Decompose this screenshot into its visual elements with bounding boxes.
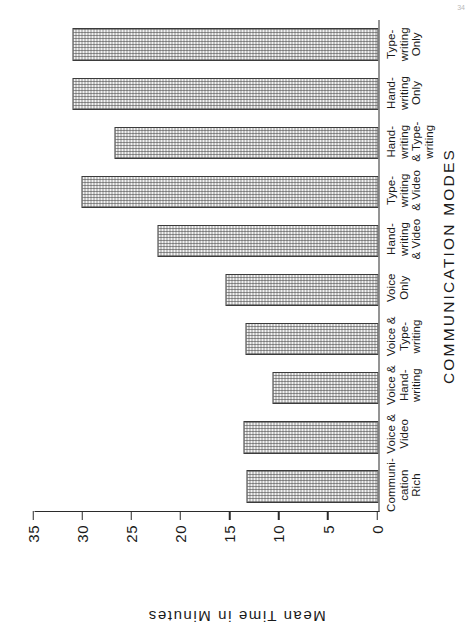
y-axis-tick-mark <box>327 511 329 520</box>
x-axis-category-label-line: Communi- <box>384 458 397 512</box>
x-axis-title: COMMUNICATION MODES <box>439 20 457 512</box>
x-axis-category-label: Communi-cationRich <box>379 458 439 512</box>
x-axis-category-label-line: writing <box>397 215 410 264</box>
bar[interactable] <box>157 225 378 257</box>
x-axis-category-label-line: cation <box>397 458 410 512</box>
x-axis-category-label-line: Type- <box>384 20 397 69</box>
x-axis-category-label-line: Rich <box>409 458 422 512</box>
x-axis-category-label: Hand-writingOnly <box>379 69 439 118</box>
x-axis-category-label: Voice &Video <box>379 409 439 458</box>
x-axis-category-label: Voice &Hand-writing <box>379 361 439 410</box>
bar[interactable] <box>246 470 378 502</box>
bar-slot <box>34 462 378 511</box>
y-axis-title: Mean Time in Minutes <box>146 608 325 625</box>
bar-slot <box>34 266 378 315</box>
x-axis-category-labels: Communi-cationRichVoice &VideoVoice &Han… <box>379 20 439 512</box>
y-axis-tick-mark <box>376 511 378 520</box>
x-axis-category-label: VoiceOnly <box>379 263 439 312</box>
y-axis-tick-label: 35 <box>24 525 41 543</box>
bar[interactable] <box>114 127 378 159</box>
y-axis-tick-mark <box>228 511 230 520</box>
x-axis-category-label-line: Hand- <box>384 69 397 118</box>
x-axis-category-label-line: & Video <box>409 215 422 264</box>
x-axis-category-label: Type-writing& Video <box>379 166 439 215</box>
y-axis-tick-mark <box>179 511 181 520</box>
bar-series <box>34 20 378 511</box>
y-axis-tick-label: 20 <box>171 525 188 543</box>
x-axis-category-label-line: writing <box>409 361 422 410</box>
x-axis-category-label-line: & Type- <box>409 117 422 166</box>
x-axis-category-label-line: Voice & <box>384 409 397 458</box>
y-axis-tick-mark <box>130 511 132 520</box>
bar-slot <box>34 167 378 216</box>
bar[interactable] <box>245 323 378 355</box>
bar-slot <box>34 315 378 364</box>
x-axis-category-label-line: Only <box>409 69 422 118</box>
bar-slot <box>34 216 378 265</box>
x-axis-category-label: Hand-writing& Type-writing <box>379 117 439 166</box>
y-axis-tick-mark <box>81 511 83 520</box>
page-corner-mark: 34 <box>457 4 465 11</box>
bar[interactable] <box>243 421 378 453</box>
x-axis-category-label-line: Hand- <box>397 361 410 410</box>
x-axis-category-label-line: Voice & <box>384 361 397 410</box>
y-axis-tick-label: 10 <box>270 525 287 543</box>
x-axis-category-label-line: Voice & <box>384 312 397 361</box>
y-axis-tick-label: 15 <box>221 525 238 543</box>
x-axis-category-label-line: Only <box>397 263 410 312</box>
x-axis-category-label-line: & Video <box>409 166 422 215</box>
x-axis-category-label-line: Hand- <box>384 215 397 264</box>
x-axis-category-label-line: writing <box>422 117 435 166</box>
bar-slot <box>34 364 378 413</box>
x-axis-category-label-line: writing <box>397 166 410 215</box>
x-axis-category-label-line: writing <box>397 117 410 166</box>
x-axis-category-label-line: Only <box>409 20 422 69</box>
y-axis-tick-label: 25 <box>122 525 139 543</box>
bar[interactable] <box>72 28 378 60</box>
y-axis-tick-label: 0 <box>368 525 385 534</box>
y-axis-tick-label: 30 <box>73 525 90 543</box>
plot-area: 05101520253035 <box>34 20 379 512</box>
bar-slot <box>34 413 378 462</box>
bar[interactable] <box>81 176 378 208</box>
y-axis-tick-mark <box>32 511 34 520</box>
bar-slot <box>34 118 378 167</box>
x-axis-category-label-line: Video <box>397 409 410 458</box>
x-axis-category-label-line: Hand- <box>384 117 397 166</box>
x-axis-category-label-line: Voice <box>384 263 397 312</box>
bar-slot <box>34 69 378 118</box>
bar[interactable] <box>72 78 378 110</box>
x-axis-category-label-line: Type- <box>397 312 410 361</box>
y-axis-tick-label: 5 <box>319 525 336 534</box>
x-axis-category-label-line: Type- <box>384 166 397 215</box>
x-axis-category-label-line: writing <box>397 69 410 118</box>
bar-slot <box>34 20 378 69</box>
bar[interactable] <box>272 372 378 404</box>
x-axis-category-label: Hand-writing& Video <box>379 215 439 264</box>
bar[interactable] <box>225 274 378 306</box>
y-axis-tick-mark <box>277 511 279 520</box>
x-axis-category-label-line: writing <box>409 312 422 361</box>
x-axis-category-label: Type-writingOnly <box>379 20 439 69</box>
x-axis-category-label-line: writing <box>397 20 410 69</box>
x-axis-category-label: Voice &Type-writing <box>379 312 439 361</box>
